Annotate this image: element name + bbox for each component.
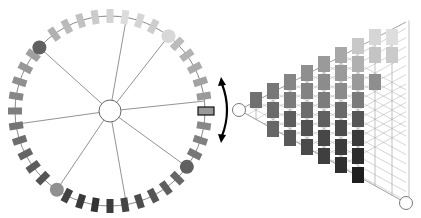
lattice-box [352, 148, 364, 164]
ring-segment [8, 108, 22, 115]
ring-segment [120, 197, 129, 212]
lattice-box [352, 56, 364, 72]
ring-segment [18, 62, 34, 75]
ring-segment [179, 48, 194, 62]
lattice-box [335, 83, 347, 99]
ring-segment [187, 148, 203, 161]
diagram-canvas [0, 0, 421, 217]
ring-segment [75, 194, 86, 209]
lattice-box [352, 111, 364, 127]
lattice-box [318, 148, 330, 164]
arrow-head-up-icon [218, 77, 226, 86]
lattice-box [352, 74, 364, 90]
lattice-box [335, 102, 347, 118]
lattice-box [250, 92, 262, 108]
lattice-box [284, 111, 296, 127]
lattice-diagonal [239, 0, 406, 55]
ring-segment [159, 180, 173, 195]
lattice-box [335, 139, 347, 155]
ring-segment [147, 188, 160, 204]
lattice-box [335, 65, 347, 81]
lattice-diagonal [239, 0, 406, 18]
lattice-box [267, 121, 279, 137]
lattice-box [284, 92, 296, 108]
ring-segment [9, 121, 24, 130]
lattice-box [318, 130, 330, 146]
ring-segment [12, 76, 27, 87]
spoke-node [180, 160, 194, 174]
lattice-box [352, 38, 364, 54]
spoke-line [39, 47, 110, 111]
lattice-apex-node [233, 104, 246, 117]
spoke-node [50, 183, 64, 197]
lattice-box [386, 47, 398, 63]
lattice-diagonal [239, 193, 406, 217]
ring-segment [196, 121, 211, 130]
ring-segment [187, 62, 203, 75]
ring-segment [61, 19, 74, 35]
lattice-box [301, 65, 313, 81]
spoke-line [16, 111, 110, 124]
lattice-box [284, 130, 296, 146]
lattice-box [318, 111, 330, 127]
lattice-bottom-node [400, 197, 413, 210]
lattice-diagonal [239, 166, 406, 218]
ring-segment [75, 13, 86, 28]
lattice-box [369, 29, 381, 45]
ring-segment [193, 135, 208, 146]
spoke-node [32, 40, 46, 54]
ring-segment [196, 92, 211, 101]
lattice-box [369, 47, 381, 63]
lattice-box [352, 92, 364, 108]
ring-segment [120, 10, 129, 25]
lattice-box [301, 120, 313, 136]
lattice-box [267, 83, 279, 99]
ring-segment [12, 135, 27, 146]
lattice-box [318, 56, 330, 72]
arrow-head-down-icon [218, 134, 226, 143]
ring-segment [91, 197, 100, 212]
ring-segment [107, 199, 114, 213]
spoke-line [110, 111, 187, 167]
ring-segment [107, 9, 114, 23]
spoke-line [110, 17, 126, 111]
lattice-box [301, 102, 313, 118]
highlighted-segment [198, 107, 214, 115]
ring-segment [18, 148, 34, 161]
ring-segment [25, 160, 40, 174]
lattice-box [284, 74, 296, 90]
lattice-box [369, 74, 381, 90]
spoke-line [110, 101, 204, 111]
spoke-line [57, 111, 110, 190]
lattice-box [335, 120, 347, 136]
ring-segment [91, 10, 100, 25]
lattice-box [386, 29, 398, 45]
ring-to-lattice-diagram [0, 0, 421, 217]
lattice-box [318, 74, 330, 90]
lattice-diagonal [239, 212, 406, 217]
lattice-box [352, 130, 364, 146]
ring-segment [47, 26, 61, 41]
ring-center-node [99, 100, 121, 122]
rotate-arrow-icon [222, 84, 227, 136]
lattice-box [335, 47, 347, 63]
lattice-box [301, 83, 313, 99]
lattice-diagonal [239, 0, 406, 27]
lattice-diagonal [239, 0, 406, 8]
ring-segment [134, 194, 145, 209]
lattice-box [335, 157, 347, 173]
ring-segment [9, 92, 24, 101]
ring-segment [147, 19, 160, 35]
ring-segment [193, 76, 208, 87]
lattice-box [301, 139, 313, 155]
lattice-diagonal [239, 156, 406, 217]
lattice-diagonal [239, 203, 406, 218]
lattice-box [352, 167, 364, 183]
lattice-box [267, 102, 279, 118]
lattice-diagonal [239, 175, 406, 217]
spoke-node [161, 29, 175, 43]
spoke-line [110, 36, 168, 111]
lattice-box [318, 92, 330, 108]
ring-segment [134, 13, 145, 28]
spoke-line [110, 111, 126, 205]
